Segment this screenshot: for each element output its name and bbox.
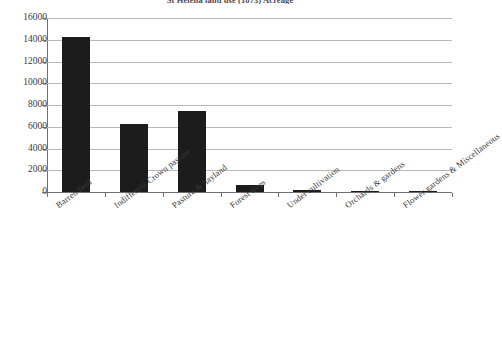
x-tick-label: Barren land <box>54 177 94 210</box>
x-tick-label: Under cultivation <box>285 164 341 210</box>
x-tick-label: Flower gardens & Miscellaneous <box>401 131 502 210</box>
x-tick-label: Forest trees <box>228 177 267 210</box>
x-tick-label: Pasture & hayland <box>170 162 229 210</box>
x-tick-label: Orchards & gardens <box>343 159 406 210</box>
